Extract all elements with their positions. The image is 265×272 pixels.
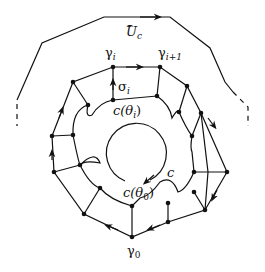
label-gamma-i: γi [105, 46, 116, 62]
inner-loop-c [106, 123, 166, 181]
label-outer-set: ⌢ Uc [126, 25, 142, 41]
label-gamma-0: γ0 [127, 244, 141, 260]
label-c-theta-i: c(θi) [113, 104, 141, 120]
label-sigma-i: σi [118, 80, 130, 96]
diagram: ⌢ Uc γi γi+1 σi c(θi) c c(θ0) γ0 [0, 0, 265, 272]
label-curve-c: c [167, 166, 174, 179]
label-c-theta-0: c(θ0) [123, 186, 154, 202]
label-gamma-i-plus-1: γi+1 [158, 46, 182, 62]
